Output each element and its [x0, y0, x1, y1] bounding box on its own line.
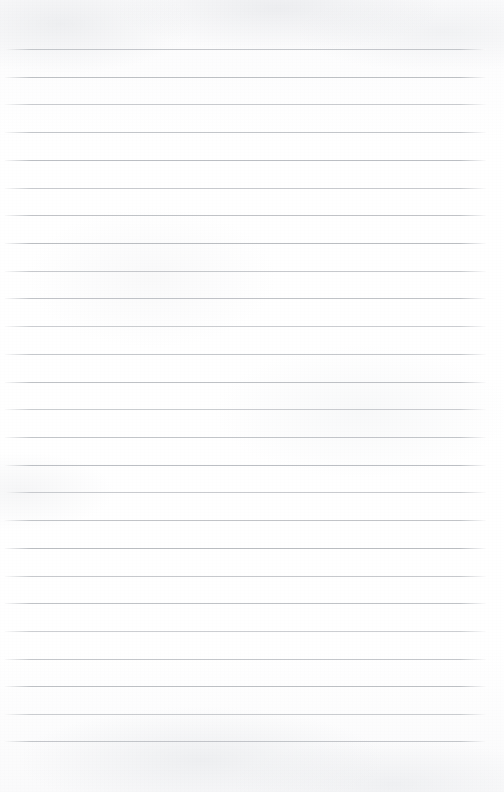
ruled-line	[5, 520, 486, 521]
ruled-line	[5, 188, 486, 189]
ruled-line	[5, 686, 486, 687]
ruled-line	[5, 298, 486, 299]
ruled-line	[5, 437, 486, 438]
ruled-line	[5, 160, 486, 161]
ruled-line	[5, 603, 486, 604]
ruled-line	[5, 354, 486, 355]
top-margin-area	[0, 0, 504, 49]
ruled-line	[5, 492, 486, 493]
ruled-line	[5, 77, 486, 78]
ruled-line	[5, 243, 486, 244]
ruled-line	[5, 576, 486, 577]
ruled-line	[5, 548, 486, 549]
ruled-line	[5, 326, 486, 327]
ruled-line	[5, 409, 486, 410]
ruled-line	[5, 741, 486, 742]
left-margin-area	[0, 0, 5, 792]
lined-paper-page	[0, 0, 504, 792]
ruled-line	[5, 49, 486, 50]
ruled-line	[5, 104, 486, 105]
ruled-line	[5, 659, 486, 660]
ruled-line	[5, 382, 486, 383]
ruled-line	[5, 271, 486, 272]
ruled-line	[5, 215, 486, 216]
ruled-line	[5, 132, 486, 133]
right-margin-area	[486, 0, 504, 792]
ruled-line	[5, 631, 486, 632]
ruled-line	[5, 714, 486, 715]
ruled-lines-group	[0, 0, 504, 792]
bottom-margin-area	[0, 742, 504, 792]
paper-grain-overlay	[0, 0, 504, 792]
ruled-line	[5, 465, 486, 466]
